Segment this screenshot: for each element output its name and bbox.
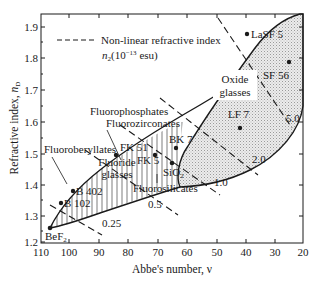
point-label: FK 5 bbox=[137, 154, 160, 166]
fluoroberyllates-leader bbox=[52, 157, 67, 184]
point-label: BeF2 bbox=[45, 230, 67, 244]
x-tick-labels: 110 100 90 80 70 60 50 40 30 20 bbox=[33, 246, 309, 258]
iso-label-0.5: 0.5 bbox=[148, 198, 162, 210]
y-tick-label: 1.6 bbox=[24, 116, 38, 128]
iso-label-1.0: 1.0 bbox=[214, 176, 228, 188]
y-tick-label: 1.7 bbox=[24, 84, 38, 96]
region-label-fluoride-2: glasses bbox=[101, 168, 132, 180]
point-label: SF 56 bbox=[263, 69, 289, 81]
x-tick-label: 40 bbox=[241, 246, 253, 258]
y-tick-label: 1.4 bbox=[24, 179, 38, 191]
point-b402: B 402 bbox=[71, 185, 103, 197]
point-lasf5: LaSF 5 bbox=[245, 28, 284, 40]
iso-label-2.0: 2.0 bbox=[252, 153, 266, 165]
point-label: BK 7 bbox=[169, 133, 193, 145]
point-label: B 102 bbox=[64, 197, 91, 209]
region-label-fluorophosphates: Fluorophosphates bbox=[90, 105, 168, 117]
point-label: LF 7 bbox=[228, 108, 250, 120]
point-label: FK 51 bbox=[120, 141, 148, 153]
y-tick-labels: 1.2 1.3 1.4 1.5 1.6 1.7 1.8 1.9 bbox=[24, 21, 38, 248]
point-fk5: FK 5 bbox=[137, 153, 160, 166]
region-label-fluoride-1: Fluoride bbox=[98, 156, 135, 168]
iso-label-0.25: 0.25 bbox=[102, 217, 122, 229]
x-tick-label: 20 bbox=[298, 246, 310, 258]
x-tick-label: 110 bbox=[33, 246, 50, 258]
point-label: B 402 bbox=[76, 185, 103, 197]
legend-sublabel: n2(10−13 esu) bbox=[102, 49, 158, 63]
point-bef2: BeF2 bbox=[45, 226, 67, 244]
x-tick-label: 70 bbox=[153, 246, 165, 258]
point-b102: B 102 bbox=[59, 197, 91, 209]
region-label-fluorosilicates: Fluorosilicates bbox=[133, 182, 198, 194]
iso-label-5.0: 5.0 bbox=[286, 112, 300, 124]
x-tick-label: 50 bbox=[212, 246, 224, 258]
y-tick-label: 1.3 bbox=[24, 210, 38, 222]
region-label-fluoroberyllates: Fluoroberyllates bbox=[44, 143, 116, 155]
x-tick-label: 100 bbox=[61, 246, 78, 258]
region-label-oxide-1: Oxide bbox=[222, 73, 249, 85]
legend: Non-linear refractive index n2(10−13 esu… bbox=[57, 34, 221, 63]
x-tick-label: 30 bbox=[270, 246, 282, 258]
region-label-fluorozirconates: Fluorozirconates bbox=[106, 117, 180, 129]
x-tick-label: 60 bbox=[182, 246, 194, 258]
region-label-oxide-2: glasses bbox=[219, 86, 250, 98]
x-tick-label: 80 bbox=[123, 246, 135, 258]
legend-label: Non-linear refractive index bbox=[101, 34, 221, 46]
y-axis-title: Refractive index, nD bbox=[8, 82, 22, 175]
x-tick-label: 90 bbox=[94, 246, 106, 258]
point-label: LaSF 5 bbox=[251, 28, 284, 40]
x-axis-title: Abbe's number, ν bbox=[132, 263, 212, 276]
y-tick-label: 1.9 bbox=[24, 21, 38, 33]
y-tick-label: 1.8 bbox=[24, 52, 38, 64]
y-tick-label: 1.5 bbox=[24, 148, 38, 160]
refractive-index-vs-abbe-chart: 1.2 1.3 1.4 1.5 1.6 1.7 1.8 1.9 110 100 … bbox=[0, 0, 319, 284]
